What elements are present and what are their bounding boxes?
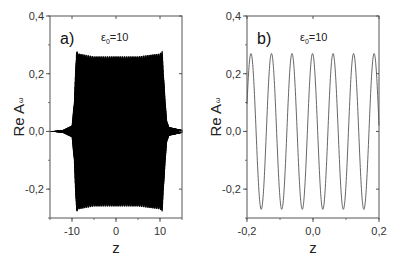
y-tick-label: 0,4 <box>29 10 44 22</box>
panel-a-y-axis-title: Re Aω <box>10 97 27 137</box>
panel-a-annotation: ε0=10 <box>101 31 128 45</box>
panel-b-annotation: ε0=10 <box>300 31 327 45</box>
y-tick-label: -0,2 <box>222 183 241 195</box>
y-tick-label: 0,0 <box>29 125 44 137</box>
panel-b-label: b) <box>257 30 271 47</box>
y-tick-label: 0,4 <box>226 10 241 22</box>
svg-text:Re Aω: Re Aω <box>207 97 224 137</box>
svg-text:Re Aω: Re Aω <box>10 97 27 137</box>
x-tick-label: -0,2 <box>238 225 257 237</box>
x-tick-label: 0 <box>113 225 119 237</box>
panel-b-signal-line <box>247 54 379 210</box>
panel-b-y-axis-title: Re Aω <box>207 97 224 137</box>
panel-b-x-axis-title: z <box>309 239 317 256</box>
figure: -10010-0,20,00,20,4 a) ε0=10 z Re Aω -0,… <box>0 0 399 269</box>
x-tick-label: 10 <box>154 225 166 237</box>
panel-a-x-axis-title: z <box>112 239 120 256</box>
y-tick-label: 0,0 <box>226 125 241 137</box>
x-tick-label: 0,0 <box>305 225 320 237</box>
panel-b: -0,20,00,2-0,20,00,20,4 b) ε0=10 z Re Aω <box>207 10 387 256</box>
panel-a-signal-line <box>50 51 182 212</box>
panel-a: -10010-0,20,00,20,4 a) ε0=10 z Re Aω <box>10 10 182 256</box>
x-tick-label: -10 <box>64 225 80 237</box>
y-tick-label: 0,2 <box>29 68 44 80</box>
x-tick-label: 0,2 <box>371 225 386 237</box>
y-tick-label: 0,2 <box>226 68 241 80</box>
panel-a-label: a) <box>60 30 74 47</box>
y-tick-label: -0,2 <box>25 183 44 195</box>
